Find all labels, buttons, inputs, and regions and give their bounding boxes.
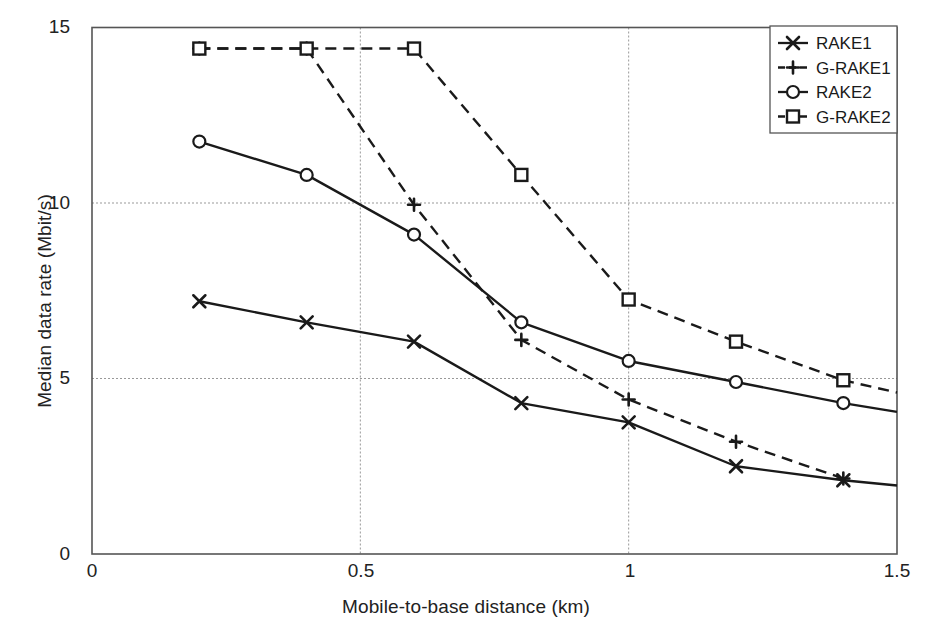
marker-g-rake2-3-glyph (515, 169, 527, 181)
marker-rake2-2 (408, 229, 420, 241)
legend: RAKE1G-RAKE1RAKE2G-RAKE2 (770, 26, 897, 133)
marker-g-rake2-1-glyph (301, 43, 313, 55)
y-axis-title: Median data rate (Mbit/s) (34, 101, 56, 501)
x-axis-title: Mobile-to-base distance (km) (0, 596, 932, 618)
marker-g-rake2-0 (193, 43, 205, 55)
legend-label-3: G-RAKE2 (816, 108, 891, 127)
marker-rake2-4 (623, 355, 635, 367)
legend-marker-3 (787, 111, 799, 123)
x-tick-label-1-5: 1.5 (867, 560, 927, 582)
marker-g-rake1-4 (623, 394, 635, 406)
marker-rake2-1 (301, 169, 313, 181)
y-tick-label-15: 15 (26, 16, 70, 38)
marker-rake2-3 (515, 316, 527, 328)
y-tick-label-10: 10 (26, 192, 70, 214)
marker-g-rake2-4 (623, 294, 635, 306)
line-chart-svg: RAKE1G-RAKE1RAKE2G-RAKE2 (0, 0, 932, 630)
marker-g-rake2-2-glyph (408, 43, 420, 55)
series-line-rake2 (199, 142, 897, 412)
y-tick-label-5: 5 (26, 367, 70, 389)
marker-g-rake2-0-glyph (193, 43, 205, 55)
x-tick-label-0: 0 (62, 560, 122, 582)
marker-rake2-0-glyph (193, 136, 205, 148)
marker-rake2-4-glyph (623, 355, 635, 367)
marker-g-rake1-3-glyph (515, 334, 527, 346)
marker-g-rake2-2 (408, 43, 420, 55)
marker-rake2-0 (193, 136, 205, 148)
marker-rake2-5-glyph (730, 376, 742, 388)
legend-label-2: RAKE2 (816, 83, 872, 102)
legend-marker-3-glyph (787, 111, 799, 123)
marker-g-rake1-5 (730, 436, 742, 448)
marker-g-rake2-1 (301, 43, 313, 55)
marker-g-rake1-5-glyph (730, 436, 742, 448)
legend-label-0: RAKE1 (816, 34, 872, 53)
marker-g-rake1-3 (515, 334, 527, 346)
legend-marker-2-glyph (787, 86, 799, 98)
marker-rake2-3-glyph (515, 316, 527, 328)
legend-label-1: G-RAKE1 (816, 59, 891, 78)
marker-g-rake2-6 (837, 374, 849, 386)
marker-g-rake2-6-glyph (837, 374, 849, 386)
legend-entry-g-rake2[interactable]: G-RAKE2 (778, 108, 891, 127)
marker-rake2-1-glyph (301, 169, 313, 181)
x-tick-label-0-5: 0.5 (331, 560, 391, 582)
series-line-g-rake1 (199, 49, 843, 479)
series-g-rake1 (193, 43, 849, 485)
marker-rake2-5 (730, 376, 742, 388)
series-rake2 (193, 136, 897, 412)
marker-g-rake2-4-glyph (623, 294, 635, 306)
chart-figure: RAKE1G-RAKE1RAKE2G-RAKE2 Median data rat… (0, 0, 932, 630)
x-tick-label-1: 1 (600, 560, 660, 582)
marker-rake2-2-glyph (408, 229, 420, 241)
marker-g-rake2-5-glyph (730, 336, 742, 348)
legend-marker-2 (787, 86, 799, 98)
series-rake1 (193, 295, 897, 486)
marker-g-rake2-3 (515, 169, 527, 181)
marker-rake2-6-glyph (837, 397, 849, 409)
marker-rake2-6 (837, 397, 849, 409)
marker-g-rake2-5 (730, 336, 742, 348)
marker-g-rake1-4-glyph (623, 394, 635, 406)
